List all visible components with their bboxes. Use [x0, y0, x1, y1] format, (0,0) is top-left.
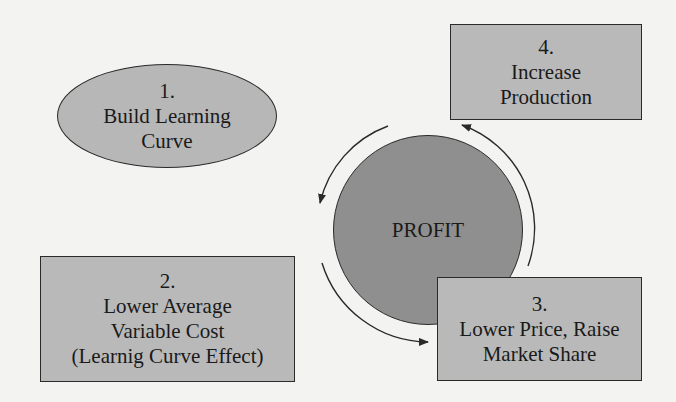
step-label-line: Increase [511, 60, 581, 85]
step-1-build-learning-curve: 1. Build Learning Curve [57, 64, 277, 168]
step-4-increase-production: 4. Increase Production [450, 24, 642, 120]
step-3-lower-price-raise-market-share: 3. Lower Price, Raise Market Share [437, 277, 642, 381]
step-number: 4. [538, 35, 554, 60]
step-number: 2. [160, 269, 176, 294]
step-label-line: (Learnig Curve Effect) [71, 344, 263, 369]
step-2-lower-average-variable-cost: 2. Lower Average Variable Cost (Learnig … [40, 256, 295, 382]
step-label-line: Build Learning [103, 104, 231, 129]
step-number: 3. [532, 292, 548, 317]
step-label-line: Curve [141, 129, 192, 154]
step-label-line: Market Share [483, 342, 597, 367]
step-label-line: Lower Average [103, 294, 231, 319]
step-label-line: Lower Price, Raise [459, 317, 619, 342]
center-label: PROFIT [392, 218, 464, 243]
step-label-line: Production [500, 85, 592, 110]
step-number: 1. [159, 79, 175, 104]
step-label-line: Variable Cost [111, 319, 225, 344]
learning-curve-profit-cycle-diagram: 1. Build Learning Curve 4. Increase Prod… [0, 0, 676, 402]
